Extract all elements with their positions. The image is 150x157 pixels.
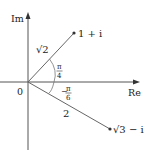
angle-label-pi4-denominator: 4 <box>57 72 62 80</box>
point-1-plus-i <box>72 31 75 34</box>
imaginary-axis-label: Im <box>11 13 24 24</box>
origin-label: 0 <box>17 86 23 97</box>
angle-label-pi6-denominator: 6 <box>66 94 71 102</box>
vector-1-plus-i <box>28 33 74 82</box>
modulus-label-2: 2 <box>63 108 69 119</box>
angle-label-pi4-numerator: π <box>57 63 62 71</box>
angle-arc <box>49 59 56 94</box>
imaginary-axis-arrow-icon <box>26 12 31 19</box>
point-label-1-plus-i: 1 + i <box>78 28 102 39</box>
real-axis-arrow-icon <box>133 80 140 85</box>
real-axis-label: Re <box>128 87 141 98</box>
point-sqrt3-minus-i <box>108 127 111 130</box>
diagram-svg: Im Re 0 1 + i √3 − i √2 2 π 4 − π 6 <box>0 0 150 157</box>
complex-plane-diagram: Im Re 0 1 + i √3 − i √2 2 π 4 − π 6 <box>0 0 150 157</box>
point-label-sqrt3-minus-i: √3 − i <box>113 124 144 135</box>
modulus-label-sqrt2: √2 <box>36 44 49 55</box>
angle-label-pi6-numerator: π <box>66 85 71 93</box>
